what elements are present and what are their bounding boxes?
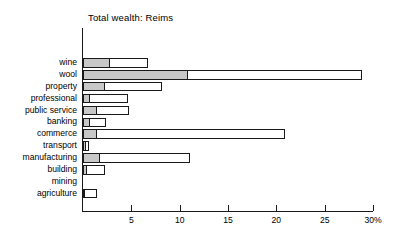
- plot-area: winewoolpropertyprofessionalpublic servi…: [0, 0, 393, 239]
- x-tick-mark-20: [276, 205, 277, 211]
- x-tick-label-10: 10: [175, 215, 185, 225]
- x-tick-mark-5: [131, 205, 132, 211]
- x-tick-mark-10: [180, 205, 181, 211]
- x-tick-mark-15: [228, 205, 229, 211]
- x-tick-label-30pct: 30%: [364, 215, 381, 225]
- x-axis-ticks: 51015202530%: [0, 0, 393, 239]
- x-tick-mark-25: [325, 205, 326, 211]
- x-tick-label-25: 25: [320, 215, 330, 225]
- chart-container: Total wealth: Reims winewoolpropertyprof…: [0, 0, 393, 239]
- x-tick-label-15: 15: [223, 215, 233, 225]
- x-tick-mark-30pct: [373, 205, 374, 211]
- x-tick-label-20: 20: [272, 215, 282, 225]
- x-tick-label-5: 5: [129, 215, 134, 225]
